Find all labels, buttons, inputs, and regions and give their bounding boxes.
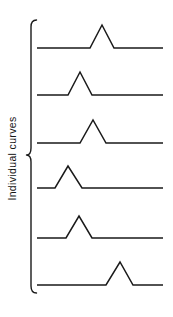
figure-panel: Individual curves [0,0,173,317]
curve-line-3 [37,120,163,143]
curve-line-6 [37,262,163,285]
curve-line-2 [37,72,163,95]
curve-line-5 [37,216,163,238]
curve-series-group [37,25,163,285]
brace-group [27,20,37,293]
left-curly-brace-icon [27,20,37,293]
curve-line-1 [37,25,163,48]
curves-plot [0,0,173,317]
curve-line-4 [37,166,163,188]
